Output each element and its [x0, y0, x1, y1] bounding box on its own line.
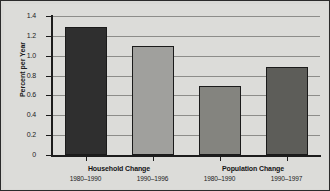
x-axis-tick-mark [86, 157, 87, 161]
plot-area [52, 16, 320, 155]
bar [65, 27, 107, 155]
y-axis-tick-mark [46, 16, 52, 17]
x-axis-group-title: Household Change [59, 165, 179, 172]
y-axis-tick-label: 1.2 [27, 32, 36, 39]
y-axis-tick-mark [46, 36, 52, 37]
y-axis-tick-label: 0.8 [27, 72, 36, 79]
y-axis-tick-label: 0.2 [27, 131, 36, 138]
chart-figure: Percent per Year 00.20.40.60.81.01.21.41… [0, 0, 330, 191]
bar [132, 46, 174, 155]
x-axis-line [51, 155, 321, 157]
y-axis-tick-mark [46, 95, 52, 96]
x-axis-tick-mark [220, 157, 221, 161]
x-axis-group-title: Population Change [193, 165, 313, 172]
y-axis-tick-label: 1.0 [27, 52, 36, 59]
y-axis-tick-mark [46, 135, 52, 136]
y-axis-tick-mark [46, 155, 52, 156]
x-axis-tick-mark [153, 157, 154, 161]
y-axis-tick-mark [46, 115, 52, 116]
y-axis-tick-label: 0 [32, 151, 36, 158]
bar [266, 67, 308, 155]
y-axis-tick-label: 1.4 [27, 12, 36, 19]
x-axis-tick-mark [287, 157, 288, 161]
x-axis-period-label: 1990–1997 [247, 175, 327, 182]
y-axis-tick-label: 0.6 [27, 91, 36, 98]
y-axis-tick-mark [46, 56, 52, 57]
y-axis-tick-label: 0.4 [27, 111, 36, 118]
bar [199, 86, 241, 156]
y-axis-title: Percent per Year [19, 22, 26, 118]
gridline [52, 16, 320, 17]
chart-panel: Percent per Year 00.20.40.60.81.01.21.41… [4, 4, 328, 189]
y-axis-tick-mark [46, 76, 52, 77]
